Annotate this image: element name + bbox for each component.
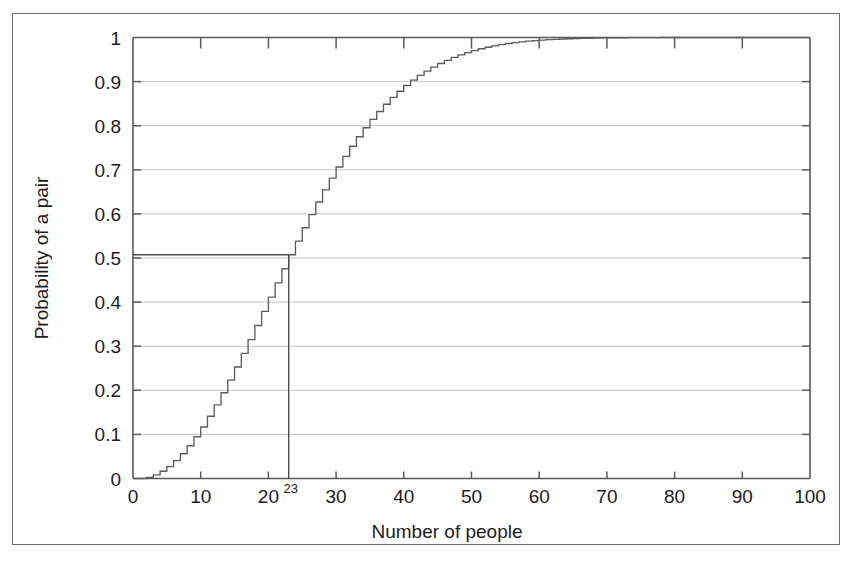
y-tick-label: 0.1	[95, 424, 121, 445]
y-tick-label: 0.8	[95, 116, 121, 137]
x-tick-label: 70	[596, 486, 617, 507]
annotation-label-23: 23	[283, 481, 297, 496]
y-tick-labels: 00.10.20.30.40.50.60.70.80.91	[95, 28, 122, 490]
x-tick-label: 0	[128, 486, 139, 507]
x-tick-label: 90	[732, 486, 753, 507]
x-tick-label: 60	[529, 486, 550, 507]
y-tick-label: 0	[110, 469, 121, 490]
birthday-problem-chart: 0102030405060708090100 00.10.20.30.40.50…	[0, 0, 854, 563]
y-tick-label: 0.3	[95, 336, 121, 357]
x-tick-labels: 0102030405060708090100	[128, 486, 826, 507]
y-tick-label: 0.5	[95, 248, 121, 269]
y-tick-label: 0.4	[95, 292, 122, 313]
x-tick-label: 30	[326, 486, 347, 507]
threshold-annotation-lines	[133, 255, 289, 479]
y-tick-label: 1	[110, 28, 121, 49]
threshold-annotation-label: 23	[283, 481, 297, 496]
x-tick-label: 50	[461, 486, 482, 507]
gridlines	[133, 82, 810, 435]
x-tick-label: 10	[190, 486, 211, 507]
y-tick-label: 0.2	[95, 380, 121, 401]
y-tick-label: 0.6	[95, 204, 121, 225]
x-axis-title: Number of people	[371, 521, 522, 542]
y-axis-title: Probability of a pair	[31, 176, 52, 339]
x-tick-label: 40	[393, 486, 414, 507]
y-tick-label: 0.7	[95, 160, 121, 181]
x-tick-label: 20	[258, 486, 279, 507]
x-tick-label: 80	[664, 486, 685, 507]
x-tick-label: 100	[794, 486, 826, 507]
y-tick-label: 0.9	[95, 72, 121, 93]
